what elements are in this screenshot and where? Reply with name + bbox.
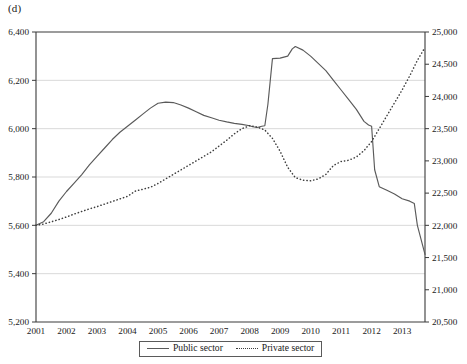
left-axis-ticks: 5,2005,4005,6005,8006,0006,2006,400	[8, 27, 36, 327]
bottom-tick-label: 2006	[179, 326, 198, 336]
legend-label-private-sector: Private sector	[262, 343, 314, 354]
right-tick-label: 22,000	[432, 221, 458, 231]
right-tick-label: 24,500	[432, 59, 458, 69]
legend-entry-public-sector: Public sector	[147, 343, 223, 354]
bottom-tick-label: 2004	[118, 326, 137, 336]
bottom-tick-label: 2005	[149, 326, 168, 336]
left-tick-label: 5,400	[8, 269, 29, 279]
chart-page: (d) 5,2005,4005,6005,8006,0006,2006,400 …	[0, 0, 467, 364]
chart-legend: Public sector Private sector	[139, 341, 322, 357]
legend-entry-private-sector: Private sector	[236, 343, 314, 354]
left-tick-label: 5,800	[8, 172, 29, 182]
bottom-tick-label: 2013	[393, 326, 412, 336]
right-tick-label: 21,500	[432, 253, 458, 263]
series-line-private-sector	[36, 47, 425, 225]
bottom-tick-label: 2008	[240, 326, 259, 336]
bottom-tick-label: 2002	[57, 326, 76, 336]
bottom-tick-label: 2009	[271, 326, 290, 336]
gridlines-group	[36, 80, 425, 273]
solid-line-icon	[147, 345, 169, 351]
chart-svg: 5,2005,4005,6005,8006,0006,2006,400 20,5…	[0, 0, 467, 364]
bottom-tick-label: 2007	[210, 326, 229, 336]
legend-label-public-sector: Public sector	[173, 343, 223, 354]
right-tick-label: 22,500	[432, 188, 458, 198]
left-tick-label: 5,600	[8, 221, 29, 231]
right-tick-label: 24,000	[432, 92, 458, 102]
series-group	[36, 47, 425, 255]
right-tick-label: 20,500	[432, 317, 458, 327]
bottom-tick-label: 2012	[362, 326, 381, 336]
plot-area: 5,2005,4005,6005,8006,0006,2006,400 20,5…	[0, 0, 467, 364]
right-tick-label: 25,000	[432, 27, 458, 37]
dotted-line-icon	[236, 345, 258, 351]
bottom-tick-label: 2001	[27, 326, 46, 336]
bottom-tick-label: 2010	[301, 326, 320, 336]
series-line-public-sector	[36, 47, 425, 255]
right-tick-label: 23,500	[432, 124, 458, 134]
bottom-tick-label: 2003	[88, 326, 107, 336]
left-tick-label: 6,000	[8, 124, 29, 134]
left-tick-label: 6,400	[8, 27, 29, 37]
right-axis-ticks: 20,50021,00021,50022,00022,50023,00023,5…	[425, 27, 458, 327]
right-tick-label: 21,000	[432, 285, 458, 295]
left-tick-label: 6,200	[8, 76, 29, 86]
bottom-axis-ticks: 2001200220032004200520062007200820092010…	[27, 326, 412, 336]
bottom-tick-label: 2011	[332, 326, 350, 336]
right-tick-label: 23,000	[432, 156, 458, 166]
